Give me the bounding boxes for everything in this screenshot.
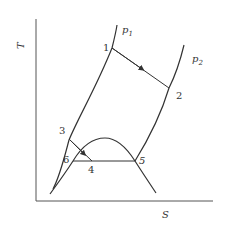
x-axis-label: S (162, 209, 169, 220)
isobar-p1-label: p1 (122, 24, 133, 38)
point-3-label: 3 (59, 125, 65, 136)
point-2-label: 2 (176, 90, 182, 101)
point-4-label: 4 (88, 164, 94, 175)
isobar-p2 (135, 45, 184, 161)
ts-diagram: T S p1 p2 1 2 3 4 5 6 (0, 0, 228, 230)
arrow-1-2 (112, 48, 142, 69)
arrow-3-4 (69, 139, 84, 154)
isobar-p2-label: p2 (192, 53, 203, 67)
y-axis-label: T (15, 41, 26, 49)
point-6-label: 6 (63, 154, 69, 165)
point-1-label: 1 (103, 42, 109, 53)
point-5-label: 5 (139, 155, 145, 166)
